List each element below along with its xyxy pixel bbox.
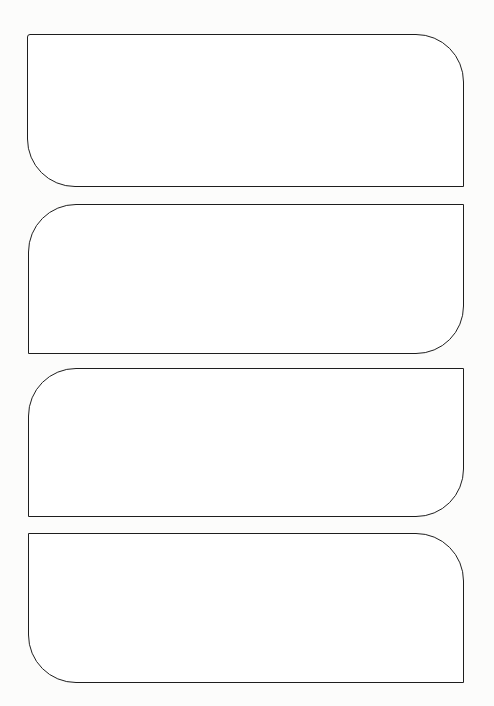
rounded-panel-1 — [27, 34, 464, 187]
drawing-canvas — [0, 0, 494, 706]
rounded-panel-3 — [28, 368, 464, 517]
rounded-panel-4 — [28, 533, 464, 683]
rounded-panel-2 — [28, 204, 464, 354]
